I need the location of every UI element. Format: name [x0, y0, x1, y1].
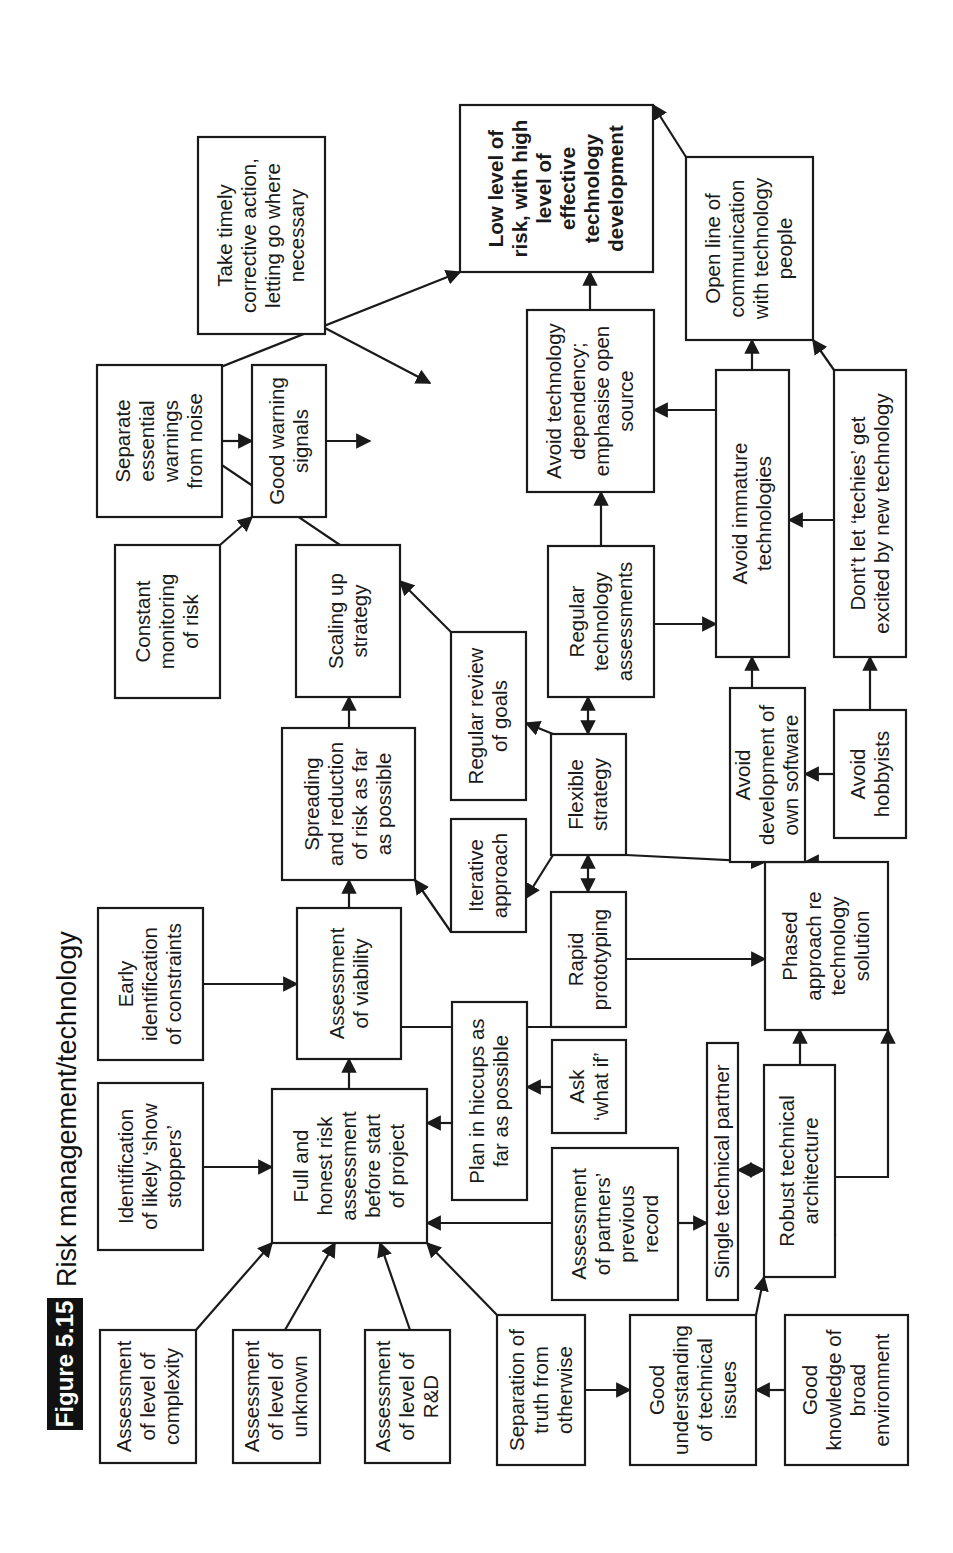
node-techies: Dont’t let ‘techies’ getexcited by new t…: [834, 370, 906, 657]
node-label-line: letting go where: [261, 163, 284, 308]
node-label-line: necessary: [285, 188, 308, 282]
node-label-line: ‘what if’: [589, 1052, 612, 1121]
node-label-line: technology: [589, 571, 612, 671]
node-review-goals: Regular reviewof goals: [451, 632, 526, 800]
node-open-line: Open line ofcommunicationwith technology…: [686, 157, 813, 340]
node-what-if: Ask‘what if’: [552, 1040, 626, 1133]
node-iterative: Iterativeapproach: [451, 819, 526, 932]
node-layer: Assessmentof level ofcomplexityIdentific…: [97, 105, 908, 1465]
node-label-line: with technology: [749, 177, 772, 320]
node-label-line: approach: [488, 833, 511, 918]
node-scaling: Scaling upstrategy: [296, 545, 400, 697]
node-label-line: approach re: [802, 891, 825, 1000]
arrow-understanding-to-robust-arch: [756, 1277, 764, 1315]
node-label-line: of project: [385, 1124, 408, 1209]
node-label-line: corrective action,: [237, 158, 260, 313]
node-label-line: far as possible: [489, 1035, 512, 1167]
arrow-monitoring-to-warning-signals: [220, 517, 252, 545]
node-label-line: level of: [532, 153, 555, 224]
node-label-line: of level of: [395, 1352, 418, 1440]
rotated-figure: Figure 5.15 Risk management/technology A…: [0, 0, 953, 1553]
node-label-line: complexity: [160, 1347, 183, 1445]
arrow-flexible-to-review-goals: [526, 723, 553, 734]
node-label-line: unknown: [288, 1355, 311, 1437]
node-label-line: of level of: [136, 1352, 159, 1440]
node-label-line: identification: [138, 927, 161, 1041]
node-label-line: of partners’: [591, 1173, 614, 1276]
figure-title: Risk management/technology: [52, 931, 82, 1287]
node-label-line: effective: [556, 147, 579, 230]
node-tech-assess: Regulartechnologyassessments: [548, 546, 654, 697]
node-label-line: architecture: [799, 1117, 822, 1224]
node-label-line: previous: [615, 1185, 638, 1263]
node-label-line: Avoid: [731, 750, 754, 801]
node-label-line: Dont’t let ‘techies’ get: [846, 416, 869, 610]
node-label-line: signals: [289, 409, 312, 473]
node-label-line: development of: [755, 705, 778, 845]
node-label-line: hobbyists: [870, 731, 893, 818]
node-label-line: Flexible: [564, 759, 587, 830]
node-label-line: source: [614, 370, 637, 432]
node-complexity: Assessmentof level ofcomplexity: [100, 1330, 196, 1463]
node-label-line: of likely ‘show: [138, 1103, 161, 1230]
node-label-line: solution: [850, 911, 873, 982]
arrow-open-line-to-goal: [653, 105, 686, 157]
node-label-line: communication: [725, 180, 748, 318]
node-label-line: Avoid technology: [542, 322, 565, 479]
node-label-line: Good: [798, 1365, 821, 1415]
arrow-techies-to-open-line: [813, 340, 834, 370]
node-label-line: broad: [846, 1364, 869, 1416]
node-label-line: dependency;: [566, 342, 589, 459]
node-label-line: truth from: [529, 1346, 552, 1434]
node-label-line: R&D: [419, 1375, 442, 1418]
node-label-line: prototyping: [588, 909, 611, 1010]
node-label-line: of goals: [488, 680, 511, 752]
node-constraints: Earlyidentificationof constraints: [98, 908, 203, 1060]
node-label-line: Constant: [131, 580, 154, 662]
node-label-line: record: [639, 1195, 662, 1253]
node-label-line: Ask: [565, 1069, 588, 1104]
node-label-line: Assessment: [567, 1168, 590, 1280]
node-label-line: Separate: [111, 399, 134, 482]
node-label-line: Take timely: [213, 183, 236, 286]
node-label-line: Phased: [778, 911, 801, 981]
arrow-rnd-to-risk-assessment: [380, 1243, 410, 1330]
node-label-line: Robust technical: [775, 1095, 798, 1247]
node-label-line: monitoring: [155, 574, 178, 670]
node-separate-warnings: Separateessentialwarningsfrom noise: [97, 365, 222, 517]
arrow-complexity-to-risk-assessment: [196, 1243, 272, 1330]
node-rnd: Assessmentof level ofR&D: [365, 1330, 450, 1463]
node-label-line: issues: [717, 1361, 740, 1419]
node-label-line: technologies: [752, 456, 775, 571]
node-label-line: of risk as far: [348, 748, 371, 860]
node-label-line: technology: [580, 133, 603, 243]
node-goal: Low level ofrisk, with highlevel ofeffec…: [460, 105, 653, 272]
arrow-unknown-to-risk-assessment: [285, 1243, 335, 1330]
node-label-line: understanding: [669, 1325, 692, 1455]
node-label-line: before start: [361, 1114, 384, 1218]
node-label-line: emphasise open: [590, 326, 613, 476]
node-label-line: technology: [826, 896, 849, 996]
node-immature: Avoid immaturetechnologies: [716, 370, 789, 657]
node-label-line: Full and: [289, 1130, 312, 1203]
node-viability: Assessmentof viability: [297, 908, 401, 1059]
node-label-line: honest risk: [313, 1116, 336, 1216]
node-label-line: of viability: [349, 938, 372, 1029]
node-own-software: Avoiddevelopment ofown software: [730, 688, 805, 862]
node-label-line: Assessment: [325, 927, 348, 1039]
node-single-partner: Single technical partner: [707, 1043, 738, 1300]
arrow-corrective-to-goal: [325, 328, 430, 383]
node-label-line: Good warning: [265, 377, 288, 505]
node-label-line: essential: [135, 401, 158, 482]
arrow-iterative-to-spreading: [415, 880, 451, 932]
node-label-line: Identification: [114, 1109, 137, 1224]
node-rapid-proto: Rapidprototyping: [551, 892, 626, 1027]
node-dependency: Avoid technologydependency;emphasise ope…: [527, 310, 654, 492]
node-label-line: Avoid: [846, 749, 869, 800]
node-label-line: Separation of: [505, 1329, 528, 1451]
node-phased: Phasedapproach retechnologysolution: [765, 862, 888, 1030]
node-label-line: from noise: [183, 393, 206, 489]
node-label-line: Regular review: [464, 647, 487, 784]
node-spreading: Spreadingand reductionof risk as faras p…: [282, 728, 415, 880]
node-label-line: of technical: [693, 1338, 716, 1442]
